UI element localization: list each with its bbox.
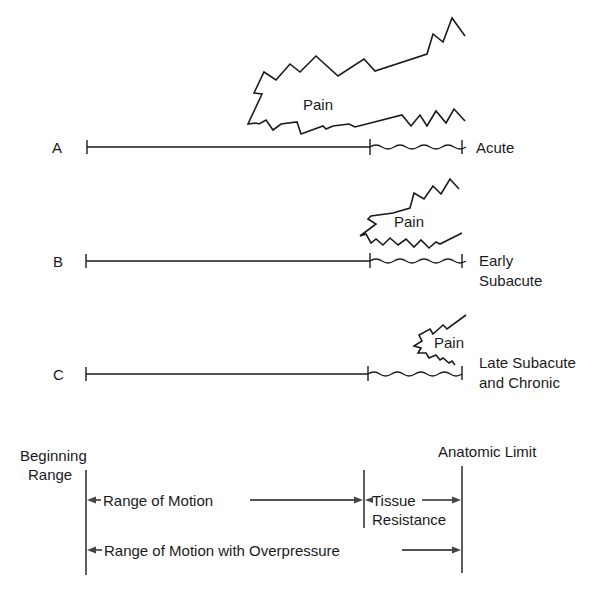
pain-label-c: Pain xyxy=(434,334,464,351)
rom-arrow-left-icon xyxy=(87,497,96,504)
range-of-motion-pain-diagram: A Pain Acute B Pain Early Subacute C Pai… xyxy=(0,0,612,591)
row-letter-c: C xyxy=(53,366,64,383)
row-b: B Pain Early Subacute xyxy=(53,179,542,289)
range-with-overpressure-label: Range of Motion with Overpressure xyxy=(104,542,340,559)
pain-label-a: Pain xyxy=(303,96,333,113)
tissue-resistance-label: Tissue xyxy=(372,492,416,509)
tissue-resistance-label-line2: Resistance xyxy=(372,511,446,528)
pain-label-b: Pain xyxy=(394,213,424,230)
tissue-resistance-wave-a xyxy=(370,145,466,149)
range-of-motion-label: Range of Motion xyxy=(103,492,213,509)
stage-label-c-line2: and Chronic xyxy=(479,374,560,391)
stage-label-b: Early xyxy=(479,252,514,269)
rom-arrow-right-icon xyxy=(354,497,363,504)
beginning-range-label: Beginning xyxy=(20,447,87,464)
stage-label-c: Late Subacute xyxy=(479,354,576,371)
legend: Beginning Range Anatomic Limit Range of … xyxy=(20,443,537,575)
row-letter-b: B xyxy=(53,253,63,270)
overpressure-arrow-right-icon xyxy=(452,547,461,554)
tissue-resistance-wave-c xyxy=(368,372,462,376)
tissue-resistance-wave-b xyxy=(370,259,466,263)
row-a: A Pain Acute xyxy=(52,18,514,156)
row-letter-a: A xyxy=(52,139,62,156)
beginning-range-label-line2: Range xyxy=(28,466,72,483)
pain-shape-a xyxy=(248,18,465,134)
overpressure-arrow-left-icon xyxy=(87,547,96,554)
anatomic-limit-label: Anatomic Limit xyxy=(438,443,537,460)
stage-label-b-line2: Subacute xyxy=(479,272,542,289)
tissue-arrow-right-icon xyxy=(452,497,461,504)
stage-label-a: Acute xyxy=(476,139,514,156)
row-c: C Pain Late Subacute and Chronic xyxy=(53,315,576,391)
